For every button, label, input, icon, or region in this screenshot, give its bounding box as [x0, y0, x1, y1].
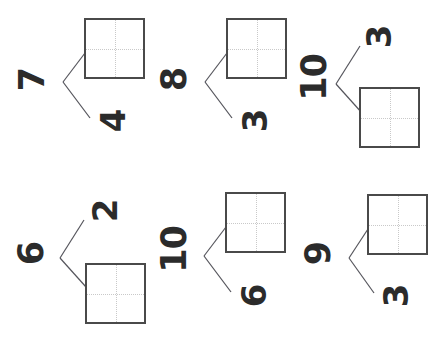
box-guide-horizontal: [361, 118, 418, 119]
problem-1-part-bottom: 4: [96, 110, 130, 133]
problem-2-answer-box[interactable]: [226, 18, 287, 79]
problem-5-part-bottom: 6: [237, 285, 271, 308]
box-guide-horizontal: [86, 49, 143, 50]
problem-3-answer-box[interactable]: [359, 87, 420, 148]
problem-3-part-top: 3: [362, 26, 396, 49]
problem-5-answer-box[interactable]: [225, 192, 286, 253]
problem-1-answer-box[interactable]: [84, 18, 145, 79]
number-bond-problem-6: 9 3: [290, 174, 445, 348]
problem-6-part-bottom: 3: [379, 285, 413, 308]
problem-1-whole-number: 7: [15, 68, 50, 91]
problem-4-part-top: 2: [88, 200, 122, 223]
problem-4-whole-number: 6: [14, 242, 49, 265]
problem-2-part-bottom: 3: [238, 110, 272, 133]
problem-3-whole-number: 10: [297, 54, 332, 101]
problem-6-whole-number: 9: [301, 242, 336, 265]
problem-4-answer-box[interactable]: [85, 263, 146, 324]
problem-2-whole-number: 8: [157, 68, 192, 91]
number-bond-problem-1: 7 4: [0, 0, 160, 160]
number-bond-problem-2: 8 3: [150, 0, 310, 160]
number-bond-problem-4: 6 2: [0, 174, 160, 348]
worksheet-canvas: 7 4 8 3 10 3: [0, 0, 445, 348]
number-bond-problem-3: 10 3: [290, 0, 445, 170]
box-guide-horizontal: [227, 223, 284, 224]
problem-6-answer-box[interactable]: [367, 194, 428, 255]
number-bond-problem-5: 10 6: [150, 174, 310, 348]
box-guide-horizontal: [369, 225, 426, 226]
box-guide-horizontal: [228, 49, 285, 50]
box-guide-horizontal: [87, 294, 144, 295]
problem-5-whole-number: 10: [157, 226, 192, 273]
